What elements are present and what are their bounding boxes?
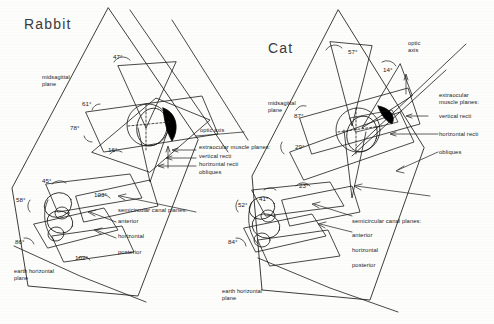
- cat-obliques-plane: [330, 42, 412, 198]
- cat-optic-axis-label: optic axis: [408, 40, 420, 53]
- rabbit-eye-globe: [127, 104, 176, 150]
- rabbit-angle-103: 103°: [94, 191, 107, 198]
- rabbit-canal-legend-heading: semicircular canal planes:: [118, 207, 187, 214]
- cat-angle-84: 84°: [228, 238, 238, 245]
- rabbit-angle-58: 58°: [16, 196, 26, 203]
- cat-angle-87: 87°: [294, 112, 304, 119]
- cat-muscle-legend-obliques: obliques: [439, 149, 461, 156]
- cat-canal-legend-anterior: anterior: [352, 232, 372, 239]
- rabbit-optic-axis-line: [130, 10, 248, 152]
- cat-angle-14: 14°: [383, 66, 393, 73]
- rabbit-angle-45: 45°: [42, 177, 52, 184]
- rabbit-midsagittal-plane-label: midsagittal plane: [42, 74, 70, 87]
- cat-panel-title: Cat: [268, 40, 293, 57]
- rabbit-angle-86: 86°: [15, 238, 25, 245]
- cat-muscle-legend-heading: extraocular muscle planes:: [439, 92, 479, 106]
- rabbit-angle-47: 47°: [113, 53, 123, 60]
- cat-eye-globe: [336, 106, 398, 156]
- cat-earth-horizontal-plane-label: earth horizontal plane: [222, 288, 262, 301]
- rabbit-muscle-legend-obliques: obliques: [199, 169, 221, 176]
- cat-angle-23: 23°: [299, 182, 309, 189]
- cat-angle-29: 29°: [295, 143, 305, 150]
- rabbit-angle-61: 61°: [82, 100, 92, 107]
- rabbit-angle-78: 78°: [70, 124, 80, 131]
- cat-canal-legend-posterior: posterior: [352, 262, 375, 269]
- cat-angle-52: 52°: [238, 201, 248, 208]
- rabbit-canal-legend-horizontal: horizontal: [118, 233, 144, 240]
- cat-muscle-legend-vertical-recti: vertical recti: [439, 113, 471, 120]
- rabbit-angle-arcs: [24, 57, 130, 260]
- rabbit-angle-102: 102°: [75, 254, 88, 261]
- rabbit-panel-title: Rabbit: [24, 16, 72, 33]
- cat-midsagittal-plane-label: midsagittal plane: [268, 100, 296, 113]
- cat-canal-legend-horizontal: horizontal: [352, 247, 378, 254]
- rabbit-muscle-legend-heading: extraocular muscle planes:: [199, 144, 271, 151]
- rabbit-optic-axis-label: optic axis: [200, 127, 224, 134]
- rabbit-muscle-legend-vertical-recti: vertical recti: [199, 153, 231, 160]
- cat-muscle-legend-horizontal-recti: horizontal recti: [439, 131, 478, 138]
- rabbit-muscle-legend-horizontal-recti: horizontal recti: [199, 161, 238, 168]
- cat-earth-horizontal-plane: [258, 258, 398, 312]
- cat-angle-57: 57°: [348, 48, 358, 55]
- cat-angle-41: 41°: [259, 195, 269, 202]
- cat-leader-lines: [312, 74, 438, 232]
- figure-canvas: Rabbit midsagittal plane optic axis eart…: [0, 0, 494, 324]
- rabbit-canal-legend-anterior: anterior: [118, 218, 138, 225]
- rabbit-earth-horizontal-plane-label: earth horizontal plane: [14, 268, 54, 281]
- rabbit-angle-16: 16°: [108, 146, 118, 153]
- cat-canal-legend-heading: semicircular canal planes:: [352, 218, 421, 225]
- rabbit-canal-legend-posterior: posterior: [118, 249, 141, 256]
